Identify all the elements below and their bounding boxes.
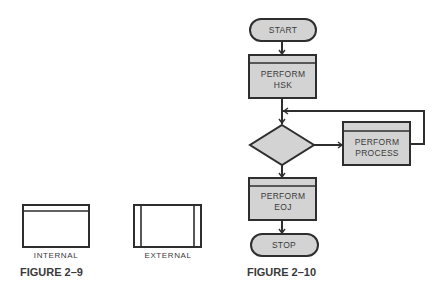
connector-decision-to-eoj <box>279 165 285 178</box>
internal-label: INTERNAL <box>34 251 78 260</box>
external-symbol-box <box>134 205 201 247</box>
eoj-line1: PERFORM <box>261 191 306 201</box>
external-subroutine-symbol <box>134 205 201 247</box>
connector-decision-to-process <box>314 142 343 148</box>
process-line1: PERFORM <box>355 137 400 147</box>
eoj-process-box: PERFORM EOJ <box>249 178 316 220</box>
external-label: EXTERNAL <box>144 251 191 260</box>
process-line2: PROCESS <box>355 148 399 158</box>
process-box: PERFORM PROCESS <box>343 122 410 165</box>
connector-start-to-hsk <box>279 41 285 55</box>
hsk-line2: HSK <box>274 80 292 90</box>
decision-shape <box>250 125 314 165</box>
figure-2-10-caption: FIGURE 2–10 <box>247 266 316 278</box>
decision-diamond <box>250 125 314 165</box>
hsk-process-box: PERFORM HSK <box>249 55 316 98</box>
figure-2-9-caption: FIGURE 2–9 <box>20 266 83 278</box>
start-label: START <box>269 25 298 35</box>
hsk-line1: PERFORM <box>261 69 306 79</box>
eoj-line2: EOJ <box>274 202 291 212</box>
stop-label: STOP <box>272 240 296 250</box>
connector-eoj-to-stop <box>279 220 285 234</box>
internal-subroutine-symbol <box>23 205 89 247</box>
diagram-canvas: INTERNAL EXTERNAL FIGURE 2–9 START PERFO… <box>0 0 445 295</box>
start-terminal: START <box>250 19 316 41</box>
stop-terminal: STOP <box>251 234 318 256</box>
